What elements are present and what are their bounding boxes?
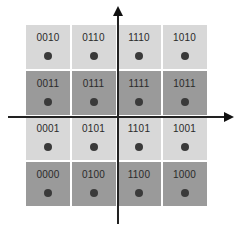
constellation-cell: 0101 (72, 116, 116, 160)
constellation-point-icon (135, 143, 143, 151)
constellation-point-icon (44, 143, 52, 151)
constellation-point-icon (135, 52, 143, 60)
symbol-label: 1101 (117, 123, 161, 134)
constellation-cell: 0111 (72, 71, 116, 115)
constellation-point-icon (90, 98, 98, 106)
constellation-cell: 1101 (117, 116, 161, 160)
symbol-label: 0100 (72, 169, 116, 180)
constellation-point-icon (181, 143, 189, 151)
symbol-label: 0001 (26, 123, 70, 134)
constellation-point-icon (181, 98, 189, 106)
constellation-point-icon (135, 98, 143, 106)
constellation-cell: 0010 (26, 25, 70, 69)
constellation-point-icon (181, 189, 189, 197)
constellation-cell: 1001 (163, 116, 207, 160)
symbol-label: 1000 (163, 169, 207, 180)
symbol-label: 1111 (117, 78, 161, 89)
constellation-cell: 1010 (163, 25, 207, 69)
constellation-cell: 1110 (117, 25, 161, 69)
arrow-up-icon (113, 6, 123, 16)
constellation-point-icon (90, 189, 98, 197)
symbol-label: 0101 (72, 123, 116, 134)
constellation-cell: 0100 (72, 162, 116, 206)
constellation-point-icon (44, 98, 52, 106)
constellation-point-icon (90, 143, 98, 151)
constellation-point-icon (44, 52, 52, 60)
constellation-cell: 1111 (117, 71, 161, 115)
constellation-point-icon (181, 52, 189, 60)
constellation-cell: 1000 (163, 162, 207, 206)
horizontal-axis (8, 116, 230, 118)
constellation-cell: 0000 (26, 162, 70, 206)
constellation-cell: 0011 (26, 71, 70, 115)
constellation-point-icon (135, 189, 143, 197)
symbol-label: 1001 (163, 123, 207, 134)
symbol-label: 1100 (117, 169, 161, 180)
constellation-cell: 0001 (26, 116, 70, 160)
constellation-cell: 0110 (72, 25, 116, 69)
symbol-label: 1010 (163, 32, 207, 43)
symbol-label: 1110 (117, 32, 161, 43)
symbol-label: 0010 (26, 32, 70, 43)
constellation-point-icon (90, 52, 98, 60)
constellation-cell: 1100 (117, 162, 161, 206)
constellation-point-icon (44, 189, 52, 197)
symbol-label: 0011 (26, 78, 70, 89)
symbol-label: 0111 (72, 78, 116, 89)
symbol-label: 0110 (72, 32, 116, 43)
constellation-cell: 1011 (163, 71, 207, 115)
symbol-label: 0000 (26, 169, 70, 180)
symbol-label: 1011 (163, 78, 207, 89)
arrow-right-icon (224, 112, 234, 122)
